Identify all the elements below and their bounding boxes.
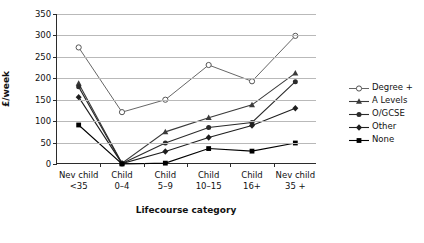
data-point-open-circle	[119, 110, 124, 115]
x-axis-tick-label-line1: Child	[155, 170, 176, 181]
data-point-circle	[76, 84, 81, 89]
y-axis-tick-label: 0	[46, 159, 51, 169]
x-axis-tick-label: Child5–9	[155, 170, 176, 191]
x-axis-tick-label-line2: 0–4	[111, 181, 132, 192]
gridline	[57, 35, 316, 36]
x-axis-tick-mark	[100, 163, 101, 167]
gridline	[57, 57, 316, 58]
x-axis-tick-label-line2: 35 +	[276, 181, 316, 192]
y-axis-tick-mark	[53, 121, 57, 122]
data-point-square	[357, 138, 362, 143]
legend-marker-triangle-icon	[348, 93, 370, 106]
chart-figure: £/week 050100150200250300350Nev child<35…	[0, 0, 424, 243]
data-point-diamond	[356, 124, 362, 130]
legend-marker-open-circle-icon	[348, 80, 370, 93]
legend-item-other[interactable]: Other	[348, 119, 413, 132]
legend-item-a-levels[interactable]: A Levels	[348, 93, 413, 106]
x-axis-tick-label: Child10–15	[196, 170, 222, 191]
x-axis-tick-mark	[187, 163, 188, 167]
x-axis-tick-label-line1: Child	[241, 170, 262, 181]
series-line	[79, 82, 296, 164]
legend-marker-diamond-icon	[348, 119, 370, 132]
y-axis-tick-label: 150	[35, 95, 51, 105]
data-point-open-circle	[76, 45, 81, 50]
gridline	[57, 143, 316, 144]
gridline	[57, 100, 316, 101]
data-point-diamond	[162, 148, 168, 154]
gridline	[57, 78, 316, 79]
x-axis-tick-label-line1: Child	[111, 170, 132, 181]
data-point-triangle	[249, 102, 255, 108]
y-axis-tick-label: 200	[35, 73, 51, 83]
gridline	[57, 14, 316, 15]
legend-marker-circle-icon	[348, 106, 370, 119]
data-point-triangle	[292, 70, 298, 76]
series-degree	[76, 33, 298, 114]
y-axis-tick-mark	[53, 100, 57, 101]
x-axis-tick-label: Child16+	[241, 170, 262, 191]
legend-item-degree[interactable]: Degree +	[348, 80, 413, 93]
plot-area: 050100150200250300350Nev child<35Child0–…	[56, 14, 316, 164]
x-axis-tick-label: Child0–4	[111, 170, 132, 191]
y-axis-tick-label: 350	[35, 9, 51, 19]
data-point-circle	[293, 79, 298, 84]
y-axis-tick-label: 100	[35, 116, 51, 126]
data-point-diamond	[292, 105, 298, 111]
y-axis-tick-mark	[53, 164, 57, 165]
x-axis-tick-label-line2: <35	[59, 181, 99, 192]
data-point-open-circle	[249, 79, 254, 84]
legend-label: A Levels	[372, 95, 407, 105]
legend-label: O/GCSE	[372, 108, 405, 118]
x-axis-tick-mark	[144, 163, 145, 167]
x-axis-tick-label-line2: 10–15	[196, 181, 222, 192]
data-point-circle	[206, 125, 211, 130]
x-axis-title: Lifecourse category	[136, 205, 237, 215]
x-axis-tick-label-line1: Nev child	[59, 170, 99, 181]
gridline	[57, 121, 316, 122]
data-point-square	[120, 162, 125, 167]
legend-label: Other	[372, 121, 396, 131]
data-point-circle	[357, 112, 362, 117]
x-axis-tick-label-line1: Child	[196, 170, 222, 181]
legend-label: Degree +	[372, 82, 413, 92]
y-axis-tick-label: 50	[40, 138, 51, 148]
y-axis-tick-mark	[53, 35, 57, 36]
x-axis-tick-label-line2: 16+	[241, 181, 262, 192]
data-point-square	[163, 161, 168, 166]
series-a-levels	[76, 70, 299, 166]
data-point-square	[250, 149, 255, 154]
y-axis-tick-mark	[53, 143, 57, 144]
series-layer	[57, 14, 317, 164]
chart-legend: Degree +A LevelsO/GCSEOtherNone	[348, 80, 413, 145]
x-axis-tick-label: Nev child<35	[59, 170, 99, 191]
y-axis-tick-label: 300	[35, 30, 51, 40]
x-axis-tick-mark	[230, 163, 231, 167]
x-axis-tick-label: Nev child35 +	[276, 170, 316, 191]
y-axis-tick-mark	[53, 78, 57, 79]
legend-marker-square-icon	[348, 132, 370, 145]
y-axis-title: £/week	[1, 71, 11, 107]
y-axis-tick-label: 250	[35, 52, 51, 62]
data-point-open-circle	[206, 62, 211, 67]
legend-item-none[interactable]: None	[348, 132, 413, 145]
x-axis-tick-mark	[274, 163, 275, 167]
x-axis-tick-label-line1: Nev child	[276, 170, 316, 181]
data-point-square	[206, 146, 211, 151]
data-point-square	[76, 123, 81, 128]
data-point-diamond	[206, 134, 212, 140]
y-axis-tick-mark	[53, 57, 57, 58]
y-axis-tick-mark	[53, 14, 57, 15]
legend-label: None	[372, 134, 394, 144]
x-axis-tick-label-line2: 5–9	[155, 181, 176, 192]
data-point-open-circle	[356, 86, 361, 91]
legend-item-o-gcse[interactable]: O/GCSE	[348, 106, 413, 119]
